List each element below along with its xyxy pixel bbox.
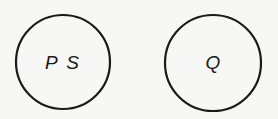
node-q-label: Q <box>206 52 221 73</box>
node-ps: P S <box>16 15 110 109</box>
node-q: Q <box>165 15 261 111</box>
diagram-canvas: P S Q <box>0 0 278 119</box>
node-ps-label: P S <box>45 52 81 73</box>
